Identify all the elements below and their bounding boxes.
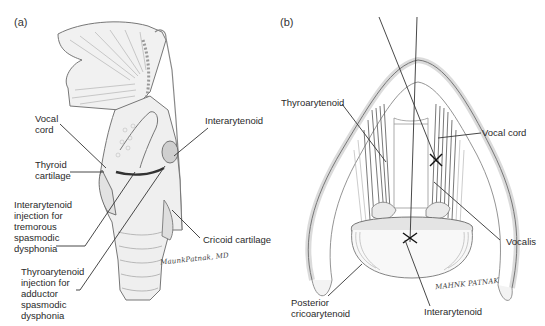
label-cricoid-cartilage: Cricoid cartilage bbox=[203, 234, 271, 245]
label-thyroarytenoid-injection: Thyroarytenoid injection for adductor sp… bbox=[21, 266, 84, 321]
label-interarytenoid-injection: Interarytenoid injection for tremorous s… bbox=[14, 199, 72, 254]
label-thyroid-cartilage: Thyroid cartilage bbox=[35, 159, 71, 181]
larynx-superior-illustration bbox=[272, 0, 545, 326]
panel-a-sagittal-larynx: (a) bbox=[0, 0, 272, 326]
label-vocal-cord: Vocal cord bbox=[35, 113, 58, 135]
panel-b-superior-view: (b) bbox=[272, 0, 545, 326]
label-interarytenoid-b: Interarytenoid bbox=[424, 306, 482, 317]
label-thyroarytenoid: Thyroarytenoid bbox=[281, 97, 344, 108]
label-interarytenoid: Interarytenoid bbox=[205, 115, 263, 126]
label-vocalis: Vocalis bbox=[506, 236, 536, 247]
label-posterior-cricoarytenoid: Posterior cricoarytenoid bbox=[291, 297, 350, 319]
label-vocal-cord-b: Vocal cord bbox=[482, 127, 526, 138]
